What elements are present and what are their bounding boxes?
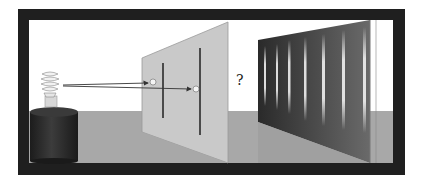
interference-screen: [258, 20, 376, 163]
double-slit-diagram: ?: [0, 0, 421, 182]
cylinder-pedestal: [30, 107, 78, 164]
question-mark-label: ?: [236, 72, 244, 88]
photon-dot-2: [193, 86, 199, 92]
photon-dot-1: [150, 79, 156, 85]
